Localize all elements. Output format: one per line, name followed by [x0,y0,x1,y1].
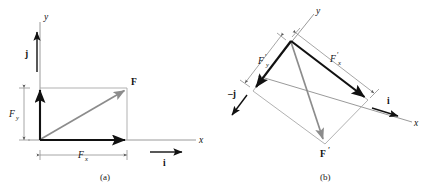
panel-a-label-fy: F y [8,109,19,121]
panel-a-label-fy-base: F [8,109,15,119]
panel-b-unit-vector-i-arrow [372,108,398,116]
panel-b-label-fx-prime-base: F [329,54,336,64]
panel-a-vector-F-label: F [131,77,137,87]
panel-b-vector-F-prime [291,42,323,139]
panel-b-dimension-cap-fx-prime-end [370,89,379,98]
panel-b-vector-Fx-prime [291,41,365,97]
panel-b-x-axis-label: x [413,118,419,128]
panel-a-unit-vector-j-label: j [24,49,28,59]
panel-b-label-fx-prime-subscript: x [337,59,341,66]
panel-b-label-fy-prime-subscript: y [265,61,269,68]
panel-b-y-axis-label: y [315,6,321,16]
panel-a-x-axis-label: x [198,135,204,145]
panel-b-construction-right-resultant [325,100,368,144]
figure-canvas: y x j i F F y F x (a) [0,0,444,191]
panel-b-label-fx-prime: F ′ x [329,51,341,66]
panel-b: y x –j i F ′ F ′ x F ′ y (b) [227,6,419,182]
panel-b-label-fy-prime-base: F [257,56,264,66]
panel-b-vector-F-prime-label-prime: ′ [328,146,330,155]
panel-a-y-axis-label: y [43,12,49,22]
figure-root: y x j i F F y F x (a) [0,0,444,191]
panel-a-unit-vector-i-label: i [163,158,166,168]
panel-a-label-fx-subscript: x [84,155,88,162]
panel-b-label-fy-prime: F ′ y [257,53,269,68]
panel-a-label-fy-subscript: y [15,114,19,121]
panel-a-label-fx: F x [77,150,88,162]
panel-b-dimension-cap-fy-prime-end [240,80,250,87]
panel-b-construction-resultant-left [253,91,325,144]
panel-a-vector-F [41,91,125,140]
panel-a-label-fx-base: F [77,150,84,160]
panel-b-vector-F-prime-label: F ′ [320,146,330,159]
panel-b-vector-F-prime-label-base: F [320,149,326,159]
panel-b-unit-vector-i-label: i [387,96,390,106]
panel-a-caption: (a) [100,172,110,182]
panel-b-unit-vector-minus-j-label: –j [227,89,236,99]
panel-b-caption: (b) [320,172,331,182]
panel-a: y x j i F F y F x (a) [8,12,204,182]
